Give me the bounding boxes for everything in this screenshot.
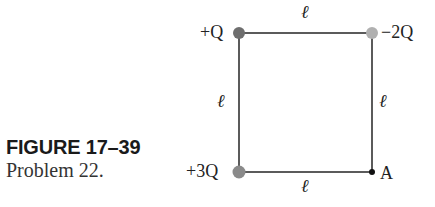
square	[239, 33, 372, 172]
side-label-bottom: ℓ	[301, 176, 309, 197]
charge-plus-q-dot	[233, 27, 245, 39]
point-a-dot	[369, 169, 375, 175]
figure: +Q −2Q +3Q A ℓ ℓ ℓ ℓ FIGURE 17–39 Proble…	[0, 0, 435, 207]
caption-title: FIGURE 17–39	[6, 136, 140, 159]
point-a-label: A	[380, 163, 393, 184]
charge-plus-3q-dot	[233, 166, 246, 179]
side-label-right: ℓ	[379, 91, 387, 112]
caption-subtitle: Problem 22.	[6, 159, 140, 182]
charge-plus-3q-label: +3Q	[186, 161, 218, 182]
side-label-left: ℓ	[217, 91, 225, 112]
charge-plus-q-label: +Q	[200, 22, 223, 43]
charge-minus-2q-label: −2Q	[381, 22, 413, 43]
figure-caption: FIGURE 17–39 Problem 22.	[6, 136, 140, 182]
charge-minus-2q-dot	[366, 27, 378, 39]
side-label-top: ℓ	[301, 2, 309, 23]
